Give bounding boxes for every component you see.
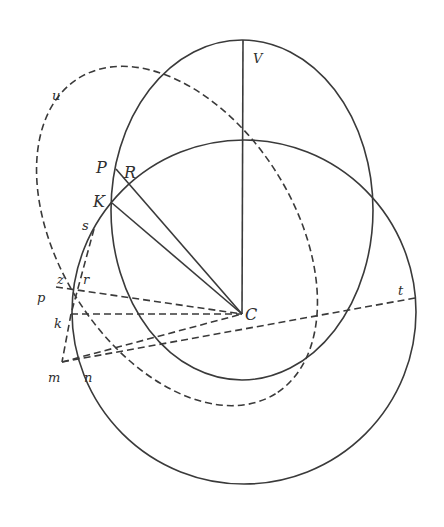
label-p: p (37, 290, 46, 305)
line-m-C (62, 314, 242, 362)
label-n: n (84, 370, 92, 385)
line-m-t (62, 298, 415, 362)
line-P-C (116, 169, 242, 314)
line-V-C (242, 40, 243, 314)
label-t: t (398, 283, 404, 298)
geometry-diagram: V u P R K s z r p k C t m n (0, 0, 444, 527)
line-k-m (62, 314, 71, 362)
label-k: k (54, 316, 62, 331)
label-z: z (56, 272, 64, 287)
label-C: C (245, 305, 257, 324)
large-circle (72, 140, 416, 484)
label-K: K (92, 192, 106, 211)
label-P: P (95, 158, 107, 177)
label-R: R (123, 163, 136, 182)
label-m: m (48, 370, 60, 385)
label-V: V (253, 51, 264, 66)
label-r: r (83, 272, 90, 287)
tilted-dashed-ellipse (0, 16, 376, 457)
line-K-C (112, 203, 242, 314)
label-s: s (82, 218, 89, 233)
label-u: u (52, 88, 60, 103)
